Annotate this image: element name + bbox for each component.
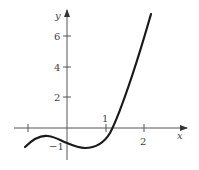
x-tick-label-1: 1	[102, 113, 108, 124]
x-axis-label: x	[177, 130, 183, 141]
function-graph: y x 6 4 2 −1 1 2	[0, 0, 199, 170]
y-tick-label-6: 6	[54, 31, 60, 42]
x-tick-label-2: 2	[140, 136, 146, 147]
y-tick-label-2: 2	[54, 92, 60, 103]
y-axis-label: y	[54, 10, 61, 21]
y-tick-label-4: 4	[54, 62, 60, 73]
y-tick-label-neg1: −1	[49, 141, 64, 152]
